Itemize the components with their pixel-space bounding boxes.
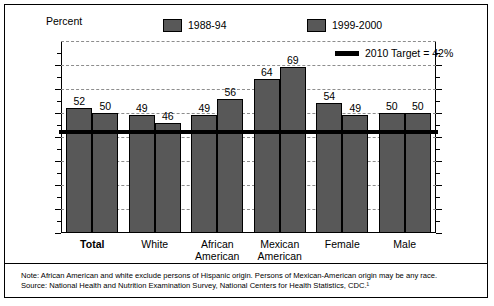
bar-value-label: 69 [287, 54, 299, 66]
y-minor-tick [436, 53, 440, 54]
y-tick-mark [55, 185, 61, 186]
bar-value-label: 54 [323, 90, 335, 102]
x-tick-label-line: American [195, 250, 239, 262]
footnote-note: Note: African American and white exclude… [21, 271, 437, 281]
bar [254, 79, 280, 233]
y-tick-mark [436, 89, 442, 90]
bar-value-label: 49 [349, 102, 361, 114]
y-tick-mark [55, 209, 61, 210]
bar-value-label: 50 [412, 100, 424, 112]
bar-value-label: 56 [224, 86, 236, 98]
y-tick-mark [55, 89, 61, 90]
bar-value-label: 50 [99, 100, 111, 112]
x-tick-label: Total [80, 238, 104, 250]
x-tick-label-line: White [141, 238, 168, 250]
chart-frame: Percent 1988-94 1999-2000 2010 Target = … [4, 4, 488, 298]
x-tick-label-line: Female [325, 238, 360, 250]
x-tick-label: White [141, 238, 168, 250]
x-tick-label-line: Male [393, 238, 416, 250]
y-tick-mark [436, 233, 442, 234]
x-tick-label: Male [393, 238, 416, 250]
gridline [61, 89, 436, 90]
footnote-source: Source: National Health and Nutrition Ex… [21, 281, 437, 291]
bar [155, 123, 181, 233]
y-tick-mark [55, 65, 61, 66]
y-minor-tick [436, 197, 440, 198]
bar-value-label: 46 [162, 110, 174, 122]
y-tick-mark [436, 185, 442, 186]
bar-value-label: 50 [386, 100, 398, 112]
y-tick-mark [436, 113, 442, 114]
y-minor-tick [436, 77, 440, 78]
y-minor-tick [57, 149, 61, 150]
legend-swatch-icon [307, 19, 326, 32]
bar [217, 99, 243, 233]
y-minor-tick [57, 173, 61, 174]
bar-value-label: 52 [73, 95, 85, 107]
x-tick-label: MexicanAmerican [258, 238, 302, 262]
y-minor-tick [436, 149, 440, 150]
footnote-block: Note: African American and white exclude… [21, 271, 437, 291]
y-minor-tick [57, 221, 61, 222]
y-minor-tick [436, 125, 440, 126]
y-tick-mark [436, 65, 442, 66]
y-tick-mark [55, 137, 61, 138]
y-minor-tick [436, 173, 440, 174]
legend-label: 1988-94 [188, 20, 227, 31]
y-minor-tick [436, 101, 440, 102]
plot-area: 01020304050607080 5250494649566469544950… [61, 41, 436, 233]
gridline [61, 41, 436, 42]
bar [316, 103, 342, 233]
y-minor-tick [57, 53, 61, 54]
y-minor-tick [57, 125, 61, 126]
gridline [61, 65, 436, 66]
y-tick-mark [55, 113, 61, 114]
x-tick-label-line: African [195, 238, 239, 250]
y-minor-tick [57, 197, 61, 198]
y-tick-mark [55, 233, 61, 234]
bar [280, 67, 306, 233]
bar-value-label: 49 [136, 102, 148, 114]
x-tick-label-line: American [258, 250, 302, 262]
x-tick-label: Female [325, 238, 360, 250]
legend-item-1988-94: 1988-94 [163, 19, 227, 32]
target-reference-line [59, 130, 438, 134]
x-tick-label-line: Total [80, 238, 104, 250]
x-tick-label-line: Mexican [258, 238, 302, 250]
y-minor-tick [57, 77, 61, 78]
legend-label: 1999-2000 [332, 20, 382, 31]
y-tick-mark [436, 161, 442, 162]
legend-item-1999-2000: 1999-2000 [307, 19, 382, 32]
y-minor-tick [436, 221, 440, 222]
x-tick-label: AfricanAmerican [195, 238, 239, 262]
y-tick-mark [436, 137, 442, 138]
y-minor-tick [57, 101, 61, 102]
bar-value-label: 64 [261, 66, 273, 78]
legend-swatch-icon [163, 19, 182, 32]
y-tick-mark [436, 209, 442, 210]
footnote-divider [5, 263, 487, 264]
bar-value-label: 49 [198, 102, 210, 114]
bar [66, 108, 92, 233]
y-tick-mark [55, 161, 61, 162]
